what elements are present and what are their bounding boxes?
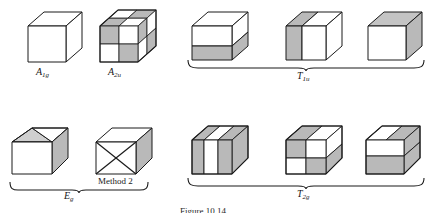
- cube-t2g-2: [284, 122, 348, 178]
- label-t2g: T2g: [297, 188, 310, 201]
- cube-t2g-3: [364, 122, 426, 178]
- cube-a2u: [96, 8, 158, 66]
- label-a2u-sub: 2u: [114, 71, 121, 79]
- cube-t1u-1: [190, 10, 254, 64]
- cube-t1u-2: [284, 10, 348, 64]
- label-t2g-sub: 2g: [303, 193, 310, 201]
- label-eg: Eg: [64, 190, 74, 203]
- figure-root: A1g A2u: [0, 0, 428, 213]
- cube-t2g-1: [190, 122, 254, 178]
- label-t1u-sub: 1u: [303, 75, 310, 83]
- label-t1u: T1u: [297, 70, 310, 83]
- cube-eg-1: [10, 122, 74, 178]
- cube-t1u-3: [366, 10, 426, 64]
- label-a1g-sub: 1g: [42, 71, 49, 79]
- label-eg-sub: g: [70, 195, 74, 203]
- figure-caption: Figure 10.14: [180, 206, 226, 213]
- cube-eg-2: [94, 122, 158, 178]
- cube-a1g: [24, 8, 86, 66]
- label-a2u: A2u: [108, 66, 121, 79]
- brace-eg: [8, 180, 150, 194]
- label-a1g: A1g: [36, 66, 49, 79]
